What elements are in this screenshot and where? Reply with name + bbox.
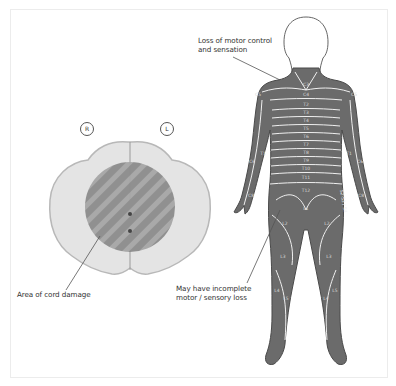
dermatome-t10: T10 (301, 166, 311, 171)
bottom-callout-label: May have incomplete motor / sensory loss (176, 285, 251, 302)
dermatome-l4-r: L4 (274, 288, 280, 293)
dermatome-l3-l: L3 (326, 254, 332, 259)
dermatome-t1-r: T1 (259, 151, 266, 156)
cord-damage-callout-label: Area of cord damage (17, 291, 91, 300)
figure-illustration: C3 C4 T2 T3 T4 T5 T6 T7 T8 T9 T10 T11 T1… (0, 0, 396, 386)
dermatome-t11: T11 (301, 175, 311, 180)
dermatome-t5: T5 (302, 126, 309, 131)
dermatome-l3-r: L3 (280, 254, 286, 259)
side-marker-left: L (160, 122, 174, 136)
top-callout-line2: and sensation (198, 46, 272, 55)
dermatome-t6: T6 (302, 134, 309, 139)
dermatome-l2-r: L2 (282, 221, 288, 226)
dermatome-t9: T9 (302, 158, 309, 163)
bottom-callout-line2: motor / sensory loss (176, 294, 251, 303)
dermatome-l5-r: L5 (283, 296, 289, 301)
top-callout-leader (233, 57, 280, 80)
dermatome-c6-l: C6 (357, 159, 363, 164)
dermatome-l1: L1 (303, 206, 309, 211)
spinal-cord-cross-section (50, 142, 211, 290)
dermatome-t3: T3 (302, 110, 309, 115)
dermatome-c6-r: C6 (249, 159, 255, 164)
dermatome-t2: T2 (302, 102, 309, 107)
dermatome-c3: C3 (303, 82, 309, 87)
dermatome-t1-l: T1 (345, 151, 352, 156)
dermatome-l4-l: L4 (323, 296, 329, 301)
side-marker-right: R (80, 122, 94, 136)
dermatome-c5-r: C5 (255, 92, 261, 97)
dermatome-c5-l: C5 (351, 92, 357, 97)
top-callout-label: Loss of motor control and sensation (198, 37, 272, 54)
dermatome-c4: C4 (303, 92, 309, 97)
dermatome-l2-l: L2 (324, 221, 330, 226)
dermatome-l5-l: L5 (332, 288, 338, 293)
dermatome-c8-l: C8 (358, 193, 364, 198)
dermatome-t12: T12 (301, 188, 311, 193)
dermatome-t4: T4 (302, 118, 309, 123)
dermatome-t8: T8 (302, 150, 309, 155)
dermatome-t7: T7 (302, 142, 309, 147)
dermatome-c8-r: C8 (248, 193, 254, 198)
